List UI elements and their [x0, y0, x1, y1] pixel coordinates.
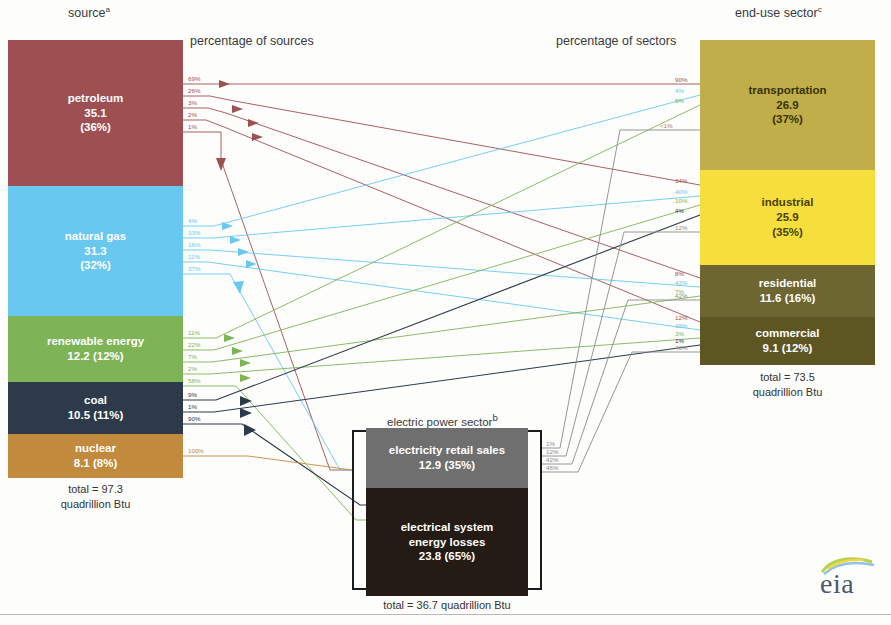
svg-text:10%: 10% — [675, 197, 688, 204]
electric-power-node-retail-sales-value: 12.9 (35%) — [419, 458, 475, 473]
energy-flow-diagram: sourcea percentage of sources percentage… — [0, 0, 891, 625]
svg-text:<1%: <1% — [660, 122, 673, 129]
source-node-petroleum-value: 35.1 — [84, 106, 106, 121]
end-use-header-footnote: c — [818, 5, 822, 14]
svg-text:11%: 11% — [188, 329, 200, 336]
source-node-renewable-energy[interactable]: renewable energy 12.2 (12%) — [8, 316, 183, 382]
sector-total-label: total = 73.5 quadrillion Btu — [700, 370, 875, 400]
sector-node-transportation-value: 26.9 — [776, 98, 798, 113]
electric-power-node-energy-losses-label-2: energy losses — [409, 535, 486, 550]
svg-text:11%: 11% — [188, 253, 200, 260]
sector-node-industrial-pct: (35%) — [772, 225, 803, 240]
sector-node-transportation-label: transportation — [749, 83, 827, 98]
svg-text:5%: 5% — [675, 97, 684, 104]
sector-node-residential-label: residential — [759, 276, 817, 291]
source-node-coal-label: coal — [84, 393, 107, 408]
sector-node-commercial-value: 9.1 (12%) — [763, 341, 813, 356]
svg-text:22%: 22% — [188, 341, 201, 348]
svg-text:42%: 42% — [546, 456, 559, 463]
sector-node-residential[interactable]: residential 11.6 (16%) — [700, 265, 875, 317]
source-node-natural-gas-pct: (32%) — [80, 258, 111, 273]
svg-text:4%: 4% — [675, 87, 684, 94]
source-node-nuclear[interactable]: nuclear 8.1 (8%) — [8, 434, 183, 478]
svg-text:90%: 90% — [675, 76, 688, 83]
svg-text:3%: 3% — [188, 99, 197, 106]
source-node-natural-gas-label: natural gas — [65, 229, 126, 244]
percentage-of-sources-header: percentage of sources — [190, 34, 314, 48]
svg-text:12%: 12% — [675, 224, 688, 231]
eia-logo-arc-icon — [818, 556, 882, 578]
svg-text:8%: 8% — [675, 270, 684, 277]
svg-text:34%: 34% — [675, 177, 688, 184]
electric-power-total-label: total = 36.7 quadrillion Btu — [352, 598, 542, 613]
svg-text:42%: 42% — [675, 292, 688, 299]
svg-text:12%: 12% — [546, 448, 559, 455]
percentage-of-sectors-header: percentage of sectors — [556, 34, 676, 48]
svg-text:1%: 1% — [675, 337, 684, 344]
svg-text:1%: 1% — [188, 123, 197, 130]
svg-text:100%: 100% — [188, 447, 204, 454]
source-node-petroleum[interactable]: petroleum 35.1 (36%) — [8, 40, 183, 186]
electric-power-header-text: electric power sector — [387, 416, 492, 428]
source-node-petroleum-label: petroleum — [68, 91, 124, 106]
source-header-text: source — [68, 6, 106, 20]
sector-node-industrial[interactable]: industrial 25.9 (35%) — [700, 170, 875, 265]
sector-node-transportation-pct: (37%) — [772, 112, 803, 127]
eia-logo[interactable]: eia — [820, 570, 854, 598]
svg-text:69%: 69% — [188, 75, 201, 82]
sector-node-transportation[interactable]: transportation 26.9 (37%) — [700, 40, 875, 170]
svg-text:26%: 26% — [188, 87, 201, 94]
electric-power-header-footnote: b — [492, 412, 497, 423]
svg-text:33%: 33% — [188, 229, 201, 236]
end-use-sector-header: end-use sectorc — [735, 5, 822, 20]
svg-text:46%: 46% — [675, 344, 688, 351]
sector-node-commercial-label: commercial — [756, 326, 820, 341]
svg-text:38%: 38% — [675, 322, 688, 329]
source-header-footnote: a — [106, 5, 110, 14]
svg-text:4%: 4% — [675, 207, 684, 214]
sector-node-industrial-label: industrial — [762, 195, 814, 210]
sector-node-commercial[interactable]: commercial 9.1 (12%) — [700, 317, 875, 365]
svg-text:46%: 46% — [546, 464, 559, 471]
source-node-renewable-energy-value: 12.2 (12%) — [67, 349, 123, 364]
electric-power-node-energy-losses-label-1: electrical system — [401, 520, 494, 535]
svg-text:7%: 7% — [188, 353, 197, 360]
svg-text:90%: 90% — [188, 415, 201, 422]
svg-text:12%: 12% — [675, 314, 688, 321]
source-node-nuclear-value: 8.1 (8%) — [74, 456, 117, 471]
svg-text:4%: 4% — [188, 217, 197, 224]
footer-divider — [0, 614, 891, 615]
electric-power-node-energy-losses[interactable]: electrical system energy losses 23.8 (65… — [366, 488, 528, 596]
svg-text:1%: 1% — [188, 403, 197, 410]
svg-text:37%: 37% — [188, 265, 201, 272]
source-node-renewable-energy-label: renewable energy — [47, 334, 144, 349]
electric-power-sector-header: electric power sectorb — [387, 412, 498, 428]
electric-power-node-energy-losses-value: 23.8 (65%) — [419, 549, 475, 564]
source-total-label: total = 97.3 quadrillion Btu — [8, 482, 183, 512]
source-node-coal-value: 10.5 (11%) — [68, 408, 124, 423]
sector-node-industrial-value: 25.9 — [776, 210, 798, 225]
source-node-nuclear-label: nuclear — [75, 441, 116, 456]
svg-text:58%: 58% — [188, 377, 201, 384]
sector-node-residential-value: 11.6 (16%) — [760, 291, 816, 306]
svg-text:1%: 1% — [546, 440, 555, 447]
svg-text:2%: 2% — [188, 111, 197, 118]
source-node-natural-gas[interactable]: natural gas 31.3 (32%) — [8, 186, 183, 316]
end-use-header-text: end-use sector — [735, 6, 818, 20]
svg-text:40%: 40% — [675, 188, 688, 195]
source-column-header: sourcea — [68, 5, 110, 20]
svg-text:7%: 7% — [675, 288, 684, 295]
electric-power-node-retail-sales-label: electricity retail sales — [389, 443, 505, 458]
svg-text:2%: 2% — [188, 365, 197, 372]
electric-power-node-retail-sales[interactable]: electricity retail sales 12.9 (35%) — [366, 428, 528, 488]
svg-text:16%: 16% — [188, 241, 201, 248]
svg-text:43%: 43% — [675, 279, 688, 286]
svg-text:3%: 3% — [675, 330, 684, 337]
source-node-natural-gas-value: 31.3 — [84, 244, 106, 259]
source-node-coal[interactable]: coal 10.5 (11%) — [8, 382, 183, 434]
source-node-petroleum-pct: (36%) — [80, 120, 111, 135]
svg-text:9%: 9% — [188, 391, 197, 398]
